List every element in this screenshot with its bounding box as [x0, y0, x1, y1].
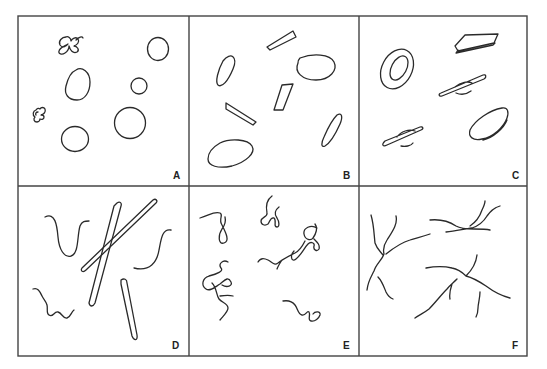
panel-b: B [208, 31, 350, 181]
panel-label-c: C [512, 170, 519, 181]
panel-f: F [367, 201, 518, 351]
panel-label-f: F [512, 340, 518, 351]
panel-label-d: D [172, 340, 179, 351]
panel-label-e: E [343, 340, 350, 351]
panel-label-b: B [343, 170, 350, 181]
panel-e: E [200, 196, 350, 351]
panel-label-a: A [173, 170, 180, 181]
panel-d: D [33, 199, 179, 351]
panel-a: A [33, 37, 180, 181]
panel-c: C [374, 34, 519, 181]
particle-morphology-figure: A B C D E [0, 0, 547, 369]
